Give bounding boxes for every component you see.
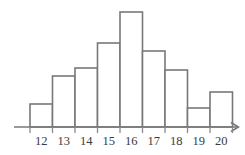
x-axis-tick-label: 19: [193, 134, 206, 148]
histogram-bar: [98, 43, 121, 127]
x-axis-tick-label: 16: [125, 134, 138, 148]
x-axis-tick-labels: 121314151617181920: [35, 134, 228, 148]
histogram-bar: [120, 12, 143, 127]
x-axis-tick-label: 18: [170, 134, 183, 148]
x-axis-tick-label: 17: [148, 134, 161, 148]
x-axis-ticks: [30, 127, 233, 133]
histogram-bar: [165, 70, 188, 127]
histogram-chart: 121314151617181920: [0, 0, 245, 155]
x-axis-tick-label: 13: [58, 134, 71, 148]
bars-group: [30, 12, 233, 127]
histogram-figure: 121314151617181920: [0, 0, 245, 155]
histogram-bar: [30, 104, 53, 127]
histogram-bar: [143, 51, 166, 127]
x-axis-tick-label: 15: [103, 134, 116, 148]
histogram-bar: [75, 68, 98, 127]
histogram-bar: [188, 108, 211, 127]
histogram-bar: [210, 92, 233, 127]
x-axis-tick-label: 20: [215, 134, 228, 148]
x-axis-tick-label: 14: [80, 134, 93, 148]
histogram-bar: [53, 76, 76, 127]
x-axis-tick-label: 12: [35, 134, 48, 148]
